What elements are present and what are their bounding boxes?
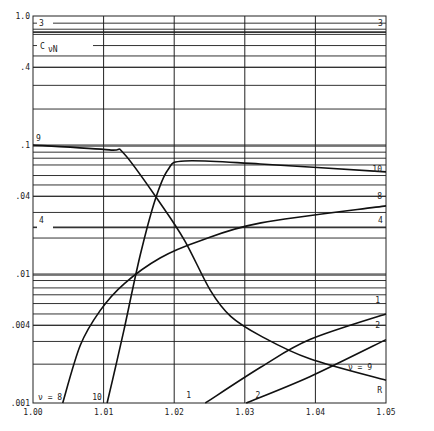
reference-line-label-subscript: νN: [48, 45, 58, 54]
x-tick-label: 1.04: [306, 408, 325, 417]
y-tick-label: .01: [16, 270, 31, 279]
vertical-gridlines: [104, 16, 316, 403]
curve-label-10-start: 10: [92, 393, 102, 402]
curve-label-9-tag: R: [377, 386, 382, 395]
y-tick-label: .04: [16, 192, 31, 201]
curve-nu-10: [107, 161, 386, 403]
curve-nu-8: [63, 206, 386, 403]
y-tick-label: .4: [20, 63, 30, 72]
curve-label-2-end: 2: [375, 321, 380, 330]
x-tick-label: 1.05: [376, 408, 395, 417]
curve-label-1-end: 1: [375, 296, 380, 305]
curve-label-8-end: 8: [377, 192, 382, 201]
curve-nu-1: [205, 314, 386, 403]
reference-line-label-right: 4: [378, 216, 383, 225]
curve-label-9-start: 9: [36, 134, 41, 143]
y-tick-label: .001: [11, 399, 30, 408]
y-axis-ticks: 1.0.4.1.04.01.004.001: [11, 12, 30, 408]
y-tick-label: .004: [11, 321, 30, 330]
x-axis-ticks: 1.001.011.021.031.041.05: [23, 408, 395, 417]
curve-label-2-start: 2: [255, 391, 260, 400]
x-tick-label: 1.01: [94, 408, 113, 417]
x-tick-label: 1.03: [235, 408, 254, 417]
curve-label-8-start: ν = 8: [38, 393, 62, 402]
x-tick-label: 1.00: [23, 408, 42, 417]
reference-line-label: C: [40, 42, 45, 51]
reference-line-label-right: 3: [378, 19, 383, 28]
curve-nu-9: [33, 145, 386, 380]
horizontal-gridlines: 33CνN44: [33, 19, 386, 364]
curve-labels: 9ν = 8101210812ν = 9R: [36, 134, 382, 402]
reference-line-label: 3: [39, 19, 44, 28]
y-tick-label: .1: [20, 141, 30, 150]
reference-line-label: 4: [39, 216, 44, 225]
y-tick-label: 1.0: [16, 12, 31, 21]
curve-label-1-start: 1: [186, 391, 191, 400]
plot-frame: [33, 16, 386, 403]
x-tick-label: 1.02: [165, 408, 184, 417]
curve-label-10-end: 10: [372, 165, 382, 174]
chart: 33CνN44 1.001.011.021.031.041.05 1.0.4.1…: [0, 0, 434, 431]
curve-label-9-end: ν = 9: [348, 363, 372, 372]
